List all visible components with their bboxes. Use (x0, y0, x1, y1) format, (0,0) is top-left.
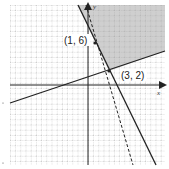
stray-dot (2, 162, 3, 163)
label-point-1-6: (1, 6) (64, 35, 87, 46)
stray-dot (2, 102, 3, 103)
label-point-3-2: (3, 2) (121, 70, 144, 81)
graph: x y (1, 6) (3, 2) (0, 0, 169, 169)
point-1-6 (93, 41, 96, 44)
point-3-2 (107, 69, 110, 72)
